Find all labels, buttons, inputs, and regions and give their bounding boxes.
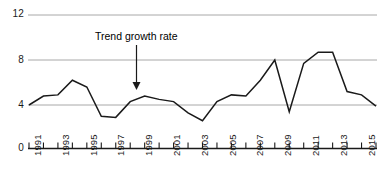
x-axis-ticks — [29, 143, 376, 149]
annotation-arrow — [133, 45, 141, 90]
plot-area — [0, 0, 391, 190]
arrow-head-icon — [133, 82, 141, 90]
data-line-growth-rate — [29, 52, 376, 121]
line-chart: 12 8 4 0 Trend growth rate 1991 1993 199… — [0, 0, 391, 190]
x-axis — [28, 143, 377, 149]
gridlines — [28, 15, 377, 105]
